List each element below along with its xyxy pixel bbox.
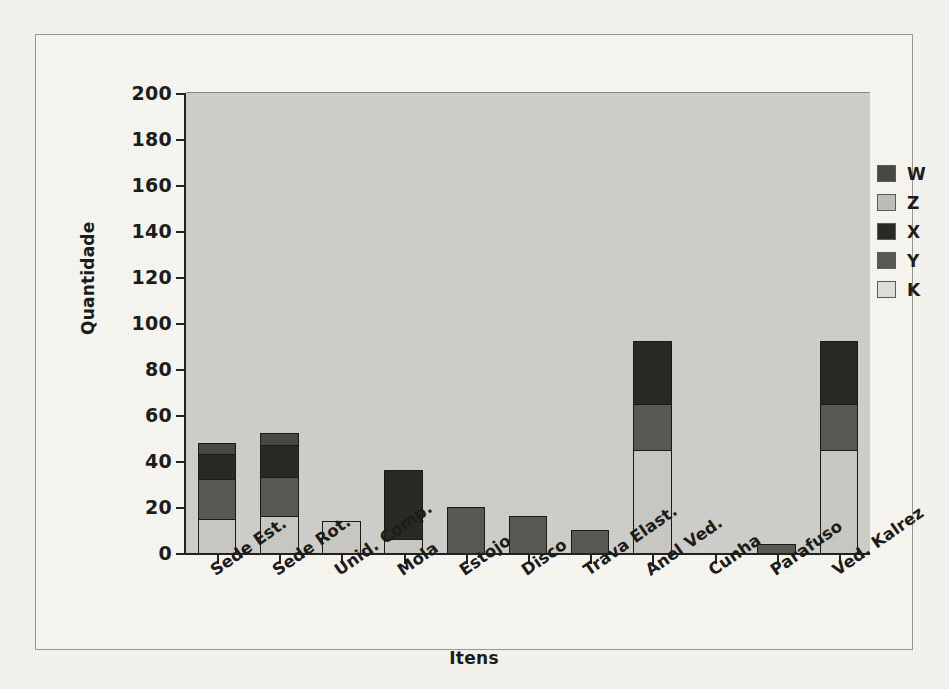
legend-label: W [907, 164, 926, 184]
legend-swatch-icon [877, 252, 896, 269]
bar-segment-W [198, 443, 237, 455]
y-tick-mark [176, 553, 186, 555]
y-tick-label: 100 [131, 312, 172, 334]
legend-swatch-icon [877, 194, 896, 211]
y-tick-mark [176, 323, 186, 325]
legend-swatch-icon [877, 281, 896, 298]
y-tick-mark [176, 231, 186, 233]
y-tick-mark [176, 461, 186, 463]
bar-segment-Y [198, 479, 237, 518]
y-tick-label: 120 [131, 266, 172, 288]
bar-segment-Y [820, 404, 859, 450]
bar-segment-X [633, 341, 672, 403]
legend-item-K: K [877, 275, 947, 304]
y-tick-label: 60 [145, 404, 172, 426]
y-tick-label: 0 [158, 542, 172, 564]
y-tick-mark [176, 93, 186, 95]
legend-label: X [907, 222, 920, 242]
x-axis-title: Itens [36, 648, 912, 668]
legend-label: Y [907, 251, 919, 271]
bar-segment-X [198, 454, 237, 479]
figure-frame: Quantidade 020406080100120140160180200 S… [35, 34, 913, 650]
y-tick-mark [176, 139, 186, 141]
y-tick-label: 180 [131, 128, 172, 150]
legend-item-X: X [877, 217, 947, 246]
y-tick-mark [176, 507, 186, 509]
bar-segment-Y [260, 477, 299, 516]
legend-item-Y: Y [877, 246, 947, 275]
y-tick-label: 20 [145, 496, 172, 518]
bar-segment-X [260, 445, 299, 477]
y-tick-label: 160 [131, 174, 172, 196]
y-tick-mark [176, 415, 186, 417]
legend-swatch-icon [877, 223, 896, 240]
y-tick-label: 80 [145, 358, 172, 380]
y-tick-mark [176, 277, 186, 279]
bar-segment-Y [633, 404, 672, 450]
y-tick-mark [176, 369, 186, 371]
plot-top-rule [186, 92, 870, 93]
legend-item-W: W [877, 159, 947, 188]
legend: WZXYK [877, 159, 947, 304]
bar-segment-W [260, 433, 299, 445]
y-tick-label: 200 [131, 82, 172, 104]
legend-item-Z: Z [877, 188, 947, 217]
y-tick-label: 140 [131, 220, 172, 242]
y-tick-mark [176, 185, 186, 187]
bar-segment-X [820, 341, 859, 403]
y-axis-title: Quantidade [78, 222, 98, 335]
legend-label: K [907, 280, 920, 300]
legend-label: Z [907, 193, 919, 213]
plot-area: 020406080100120140160180200 [184, 93, 870, 555]
y-tick-label: 40 [145, 450, 172, 472]
legend-swatch-icon [877, 165, 896, 182]
bar-1 [198, 443, 237, 553]
